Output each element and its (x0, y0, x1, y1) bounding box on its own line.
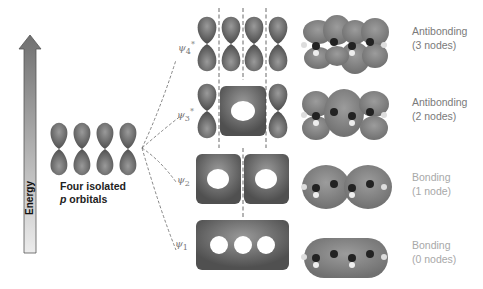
psi3-surface (301, 89, 389, 140)
psi1-label: ψ1 (175, 238, 188, 252)
mo-lobe-diagrams (196, 8, 290, 278)
psi4-lobes (198, 17, 288, 72)
psi1-description: Bonding(0 nodes) (412, 238, 456, 266)
psi3-description: Antibonding(2 nodes) (412, 95, 467, 123)
mo-surface-renderings (300, 10, 410, 280)
psi4-label: ψ4* (178, 40, 195, 56)
psi4-description: Antibonding(3 nodes) (412, 24, 467, 52)
psi2-lobes (196, 154, 289, 204)
psi1-lobes (196, 220, 289, 270)
psi2-label: ψ2 (177, 174, 190, 188)
psi1-surface (301, 238, 388, 278)
psi2-surface (301, 165, 392, 209)
psi2-description: Bonding(1 node) (412, 170, 451, 198)
psi4-surface (301, 15, 389, 74)
psi3-lobes (198, 84, 288, 139)
psi3-label: ψ3* (177, 107, 194, 123)
